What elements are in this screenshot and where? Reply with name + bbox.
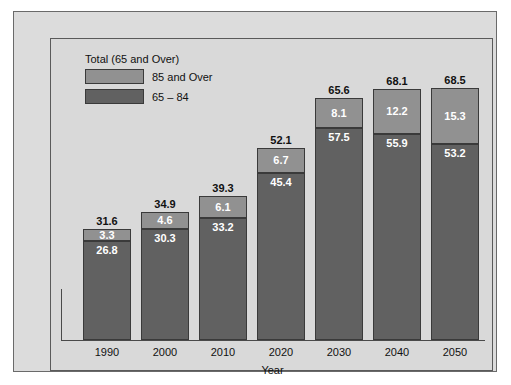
bar-total-value: 34.9 <box>141 198 189 210</box>
chart-plot-area: 31.63.326.8199034.94.630.3200039.36.133.… <box>51 39 494 372</box>
bar-total-value: 52.1 <box>257 134 305 146</box>
bar-segment-value: 6.7 <box>273 155 288 166</box>
bar-segment-value: 15.3 <box>444 111 465 122</box>
bar-segment-65-84: 33.2 <box>199 218 247 340</box>
bar-group: 31.63.326.8 <box>83 229 131 340</box>
bar-segment-65-84: 55.9 <box>373 134 421 340</box>
bar-segment-85-and-over: 3.3 <box>83 229 131 241</box>
x-axis-tick-label: 2000 <box>141 346 189 358</box>
bar-segment-value: 53.2 <box>444 148 465 159</box>
bar-segment-85-and-over: 8.1 <box>315 98 363 128</box>
bar-segment-85-and-over: 6.1 <box>199 196 247 218</box>
bar-segment-value: 8.1 <box>331 108 346 119</box>
y-axis-stub <box>61 289 62 341</box>
bar-segment-value: 45.4 <box>270 177 291 188</box>
bar-total-value: 68.1 <box>373 75 421 87</box>
plot-panel: Total (65 and Over) 85 and Over 65 – 84 … <box>50 38 493 371</box>
bar-segment-value: 26.8 <box>96 245 117 256</box>
bar-segment-85-and-over: 4.6 <box>141 212 189 229</box>
bar-group: 39.36.133.2 <box>199 196 247 340</box>
bar-group: 52.16.745.4 <box>257 148 305 340</box>
bar-total-value: 39.3 <box>199 182 247 194</box>
bar-group: 34.94.630.3 <box>141 212 189 340</box>
x-axis-tick-label: 2020 <box>257 346 305 358</box>
bar-segment-value: 6.1 <box>215 202 230 213</box>
bar-segment-value: 12.2 <box>386 106 407 117</box>
bar-segment-value: 55.9 <box>386 138 407 149</box>
bar-segment-65-84: 45.4 <box>257 173 305 340</box>
bar-segment-value: 57.5 <box>328 132 349 143</box>
bar-group: 68.112.255.9 <box>373 89 421 340</box>
bar-segment-value: 33.2 <box>212 222 233 233</box>
bar-segment-85-and-over: 12.2 <box>373 89 421 134</box>
x-axis-tick-label: 2040 <box>373 346 421 358</box>
x-axis-title: Year <box>51 364 494 376</box>
bar-total-value: 31.6 <box>83 215 131 227</box>
bar-segment-value: 3.3 <box>99 230 114 241</box>
bar-segment-65-84: 26.8 <box>83 241 131 340</box>
bar-segment-85-and-over: 6.7 <box>257 148 305 173</box>
x-axis-tick-label: 2050 <box>431 346 479 358</box>
bar-segment-value: 30.3 <box>154 233 175 244</box>
figure-outer-frame: Total (65 and Over) 85 and Over 65 – 84 … <box>13 11 497 372</box>
chart-figure: Total (65 and Over) 85 and Over 65 – 84 … <box>0 0 511 385</box>
bar-group: 65.68.157.5 <box>315 98 363 340</box>
x-axis-tick-label: 1990 <box>83 346 131 358</box>
bar-segment-value: 4.6 <box>157 215 172 226</box>
bar-segment-85-and-over: 15.3 <box>431 88 479 144</box>
bar-segment-65-84: 57.5 <box>315 128 363 340</box>
bar-total-value: 65.6 <box>315 84 363 96</box>
bar-group: 68.515.353.2 <box>431 88 479 340</box>
bar-total-value: 68.5 <box>431 74 479 86</box>
bar-segment-65-84: 30.3 <box>141 229 189 340</box>
x-axis-tick-label: 2010 <box>199 346 247 358</box>
x-axis-tick-label: 2030 <box>315 346 363 358</box>
x-axis-line <box>61 340 485 341</box>
bar-segment-65-84: 53.2 <box>431 144 479 340</box>
